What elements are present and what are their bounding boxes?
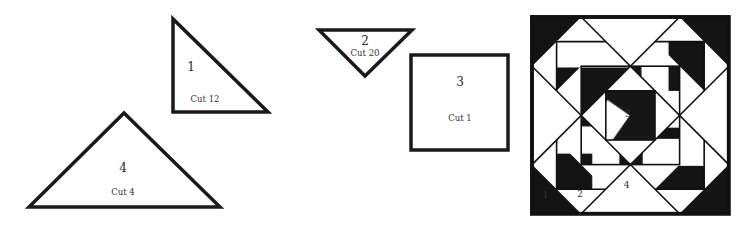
piece-1-template: 1 Cut 12 [173,19,268,112]
piece-4-number: 4 [119,161,127,175]
piece-3-number: 3 [456,75,464,89]
piece-1-number: 1 [187,60,195,74]
block-label-4: 4 [624,179,630,190]
block-label-1: 1 [543,189,549,200]
piece-4-template: 4 Cut 4 [29,113,220,207]
block-label-3: 3 [625,108,631,119]
piece-2-number: 2 [361,34,369,48]
piece-1-cut-label: Cut 12 [191,94,220,104]
block-label-2: 2 [577,188,583,199]
piece-4-cut-label: Cut 4 [111,187,135,197]
pattern-diagram: 1 Cut 12 2 Cut 20 3 Cut 1 4 Cut 4 [0,0,746,236]
piece-3-template: 3 Cut 1 [411,55,508,150]
quilt-block-diagram: 1 2 3 4 [532,17,729,214]
piece-2-cut-label: Cut 20 [351,48,380,58]
piece-2-template: 2 Cut 20 [319,30,412,76]
piece-3-cut-label: Cut 1 [448,113,472,123]
piece-3-shape [411,55,508,150]
